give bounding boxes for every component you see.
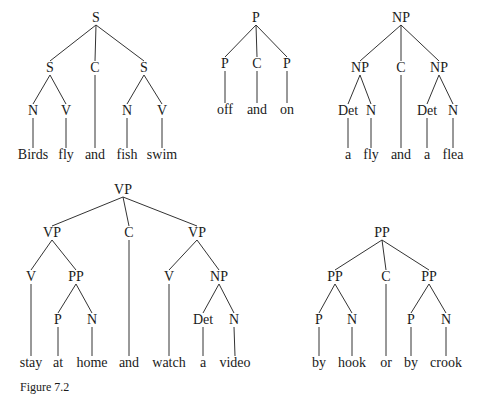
tree-node-label: N — [347, 313, 357, 327]
tree-node-label: C — [124, 226, 133, 240]
tree-node-label: P — [283, 57, 291, 71]
tree-node-label: V — [157, 104, 167, 118]
tree-word: and — [119, 356, 139, 370]
tree-branch — [219, 284, 234, 313]
tree-word: a — [345, 148, 351, 162]
tree-node-label: NP — [210, 270, 228, 284]
tree-word: off — [217, 103, 233, 117]
tree-branch — [50, 25, 96, 61]
tree-node-label: NP — [351, 61, 369, 75]
tree-node-label: C — [381, 270, 390, 284]
tree-word: video — [219, 356, 250, 370]
tree-node-label: PP — [421, 270, 437, 284]
tree-node-label: NP — [392, 11, 410, 25]
tree-branch — [144, 75, 162, 104]
tree-node-label: VP — [43, 226, 61, 240]
tree-edges — [0, 0, 490, 410]
tree-vp-edges — [31, 197, 235, 356]
tree-node-label: N — [229, 313, 239, 327]
tree-branch — [382, 240, 386, 270]
tree-branch — [31, 240, 52, 270]
tree-word: by — [312, 356, 326, 370]
tree-word: watch — [152, 356, 185, 370]
tree-branch — [96, 25, 144, 61]
tree-node-label: C — [396, 61, 405, 75]
tree-branch — [50, 75, 66, 104]
tree-branch — [335, 284, 352, 313]
tree-branch — [169, 240, 197, 270]
tree-node-label: P — [54, 313, 62, 327]
tree-word: crook — [430, 356, 462, 370]
tree-branch — [123, 197, 197, 226]
tree-branch — [319, 284, 335, 313]
tree-node-label: S — [46, 61, 54, 75]
tree-branch — [335, 240, 382, 270]
tree-word: a — [200, 356, 206, 370]
tree-branch — [360, 25, 401, 61]
tree-word: and — [247, 103, 267, 117]
tree-branch — [52, 197, 123, 226]
tree-branch — [52, 240, 76, 270]
tree-branch — [348, 75, 360, 104]
tree-node-label: Det — [193, 313, 213, 327]
tree-node-label: Det — [417, 104, 437, 118]
tree-branch — [234, 327, 235, 356]
tree-node-label: P — [252, 11, 260, 25]
tree-node-label: N — [87, 313, 97, 327]
tree-node-label: N — [366, 104, 376, 118]
tree-word: hook — [338, 356, 366, 370]
tree-node-label: C — [90, 61, 99, 75]
tree-node-label: V — [164, 270, 174, 284]
tree-node-label: PP — [327, 270, 343, 284]
tree-branch — [429, 284, 446, 313]
tree-node-label: C — [252, 57, 261, 71]
tree-word: stay — [20, 356, 43, 370]
figure-caption: Figure 7.2 — [20, 380, 69, 395]
tree-branch — [58, 284, 76, 313]
tree-node-label: P — [315, 313, 323, 327]
tree-node-label: NP — [430, 61, 448, 75]
tree-node-label: S — [140, 61, 148, 75]
tree-word: fish — [117, 148, 138, 162]
tree-branch — [123, 197, 129, 226]
tree-pp-edges — [319, 240, 446, 356]
tree-branch — [401, 25, 439, 61]
tree-branch — [225, 25, 256, 57]
tree-branch — [256, 25, 287, 57]
tree-s-edges — [33, 25, 162, 148]
tree-node-label: P — [221, 57, 229, 71]
tree-word: by — [404, 356, 418, 370]
tree-branch — [76, 284, 92, 313]
tree-branch — [439, 75, 453, 104]
tree-node-label: N — [122, 104, 132, 118]
tree-branch — [360, 75, 371, 104]
tree-word: Birds — [18, 148, 48, 162]
tree-word: or — [380, 356, 392, 370]
tree-node-label: VP — [114, 183, 132, 197]
tree-branch — [33, 75, 50, 104]
tree-branch — [382, 240, 429, 270]
figure-canvas: SSCSNVNVBirdsflyandfishswimPPCPoffandonN… — [0, 0, 490, 410]
tree-branch — [427, 75, 439, 104]
tree-branch — [127, 75, 144, 104]
tree-branch — [256, 25, 257, 57]
tree-node-label: N — [28, 104, 38, 118]
tree-node-label: N — [448, 104, 458, 118]
tree-word: home — [76, 356, 107, 370]
tree-word: and — [391, 148, 411, 162]
tree-np-edges — [348, 25, 453, 148]
tree-branch — [197, 240, 219, 270]
tree-branch — [203, 284, 219, 313]
tree-branch — [95, 25, 96, 61]
tree-node-label: PP — [374, 226, 390, 240]
tree-word: on — [280, 103, 294, 117]
tree-node-label: VP — [188, 226, 206, 240]
tree-node-label: P — [407, 313, 415, 327]
tree-node-label: V — [26, 270, 36, 284]
tree-word: a — [424, 148, 430, 162]
tree-word: swim — [147, 148, 177, 162]
tree-node-label: N — [441, 313, 451, 327]
tree-word: flea — [443, 148, 464, 162]
tree-word: at — [53, 356, 63, 370]
tree-word: fly — [363, 148, 379, 162]
